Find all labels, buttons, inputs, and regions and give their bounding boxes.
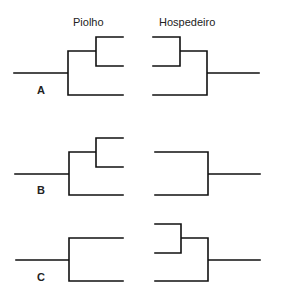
parasite-tree-c	[16, 238, 123, 281]
host-tree-b	[155, 152, 260, 195]
host-tree-c	[155, 224, 260, 281]
panel-label-c: C	[37, 271, 45, 283]
panel-b: B	[15, 138, 260, 196]
panel-label-a: A	[37, 84, 45, 96]
panel-a: A	[14, 37, 259, 96]
parasite-tree-a	[14, 37, 123, 95]
panel-label-b: B	[37, 184, 45, 196]
host-tree-a	[153, 37, 259, 95]
parasite-header: Piolho	[73, 16, 104, 28]
panel-c: C	[16, 224, 260, 283]
cophylogeny-diagram: Piolho Hospedeiro A B C	[0, 0, 281, 294]
parasite-tree-b	[15, 138, 123, 195]
host-header: Hospedeiro	[159, 16, 215, 28]
